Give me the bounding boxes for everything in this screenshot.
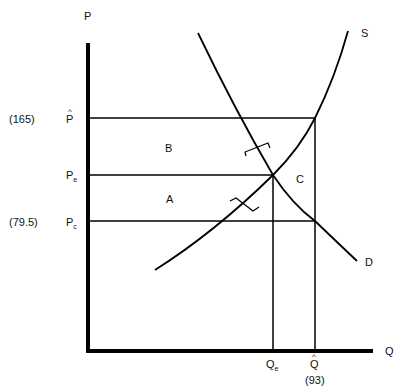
demand-curve xyxy=(198,33,357,261)
supply-label: S xyxy=(361,27,368,39)
q-e-label: Qe xyxy=(266,358,278,372)
region-c-label: C xyxy=(296,173,304,185)
supply-curve xyxy=(155,31,348,270)
y-axis-label: P xyxy=(84,10,91,22)
x-axis-label: Q xyxy=(385,345,394,357)
p-hat-label: P xyxy=(66,113,73,125)
p-c-label: Pc xyxy=(66,216,77,230)
q-hat-label: Q xyxy=(310,358,319,370)
region-b-label: B xyxy=(165,142,172,154)
q-hat-value: (93) xyxy=(305,374,325,386)
region-a-label: A xyxy=(166,193,173,205)
break-mark-lower xyxy=(230,198,259,211)
demand-label: D xyxy=(365,256,373,268)
supply-demand-diagram xyxy=(0,0,406,392)
p-hat-value: (165) xyxy=(9,113,35,125)
p-e-label: Pe xyxy=(66,169,77,183)
p-c-value: (79.5) xyxy=(9,216,38,228)
